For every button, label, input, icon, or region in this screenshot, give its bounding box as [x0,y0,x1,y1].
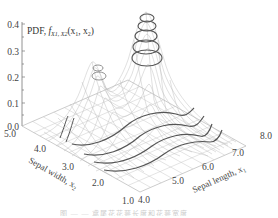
figure-caption: 图 — — 鸢尾花花萼长度和花萼宽度 [60,208,240,216]
pdf-surface-chart: 0.4 0.3 0.2 0.1 0.0 PDF, fX1, X2(x1, x2) [0,0,278,218]
x-axis-label: Sepal length, x1 [191,163,247,196]
z-tick-0.4: 0.4 [7,20,19,30]
z-tick-0.2: 0.2 [7,73,19,83]
y-tick-1.0: 1.0 [122,196,134,206]
y-axis-label: Sepal width, x2 [27,155,80,192]
z-tick-0.3: 0.3 [7,47,19,57]
x-tick-7.0: 7.0 [232,148,244,158]
x-tick-4.0: 4.0 [138,195,150,205]
y-tick-5.0: 5.0 [4,129,16,139]
z-axis-label: PDF, fX1, X2(x1, x2) [27,26,94,37]
y-tick-3.0: 3.0 [62,162,74,172]
x-tick-8.0: 8.0 [260,131,272,141]
x-tick-6.0: 6.0 [202,162,214,172]
y-tick-4.0: 4.0 [34,144,46,154]
x-tick-5.0: 5.0 [172,176,184,186]
z-axis: 0.4 0.3 0.2 0.1 0.0 [7,20,25,132]
z-tick-0.1: 0.1 [7,99,19,109]
y-tick-2.0: 2.0 [92,178,104,188]
